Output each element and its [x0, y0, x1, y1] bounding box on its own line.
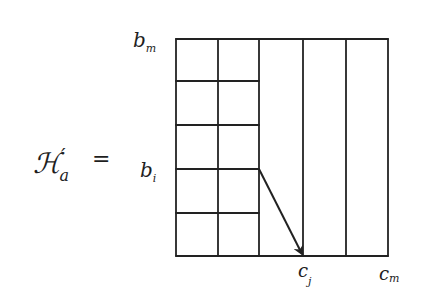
- grid-lines: [176, 39, 388, 256]
- arrow-bi-to-cj: [259, 169, 302, 254]
- matrix-grid-diagram: [0, 0, 426, 300]
